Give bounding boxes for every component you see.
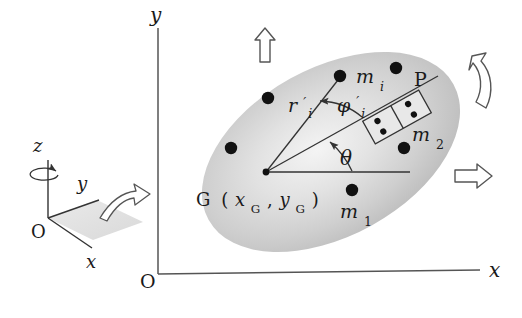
center-coord-x: x (235, 189, 245, 210)
m-1-symbol: m (340, 200, 358, 222)
r-symbol: r (288, 94, 299, 116)
phi-subscript: i (361, 106, 365, 121)
r-prime-mark: ′ (303, 95, 306, 110)
phi-symbol: φ (337, 94, 351, 116)
m-1-subscript: 1 (364, 214, 372, 229)
center-paren-close: ) (312, 189, 319, 210)
patch-label-P: P (414, 68, 427, 90)
r-subscript: i (308, 106, 312, 121)
center-coord-sep: , (267, 189, 273, 210)
svg-text:G ( x: G ( x G , y G ) (196, 189, 319, 216)
svg-text:m 1: m 1 (340, 200, 372, 229)
theta-label: θ (340, 146, 352, 170)
inset-y-axis-label: y (76, 173, 88, 194)
label-layer: O x y O z y x G ( x G , y G ) r ′ (0, 0, 522, 318)
center-coord-y-sub: G (295, 202, 305, 216)
phi-prime-mark: ′ (356, 94, 359, 109)
inset-origin-label: O (31, 221, 46, 242)
mass-label-m-2: m 2 (412, 123, 444, 152)
svg-text:r ′ i: r ′ i (288, 89, 312, 121)
center-coord-x-sub: G (251, 202, 261, 216)
svg-text:m 2: m 2 (412, 123, 444, 152)
global-origin-label: O (140, 270, 156, 292)
r-prime-i-label: r ′ i (288, 89, 312, 121)
svg-text:φ ′ i: φ ′ i (337, 88, 365, 121)
m-i-symbol: m (356, 65, 374, 87)
center-of-mass-label: G ( x G , y G ) (196, 189, 319, 216)
m-i-subscript: i (380, 79, 384, 94)
center-coord-y: y (278, 189, 290, 210)
global-x-axis-label: x (489, 258, 500, 282)
mass-label-m-1: m 1 (340, 200, 372, 229)
m-2-symbol: m (412, 123, 430, 145)
global-y-axis-label: y (149, 3, 162, 27)
inset-z-axis-label: z (32, 135, 43, 156)
figure-canvas: O x y O z y x G ( x G , y G ) r ′ (0, 0, 522, 318)
center-paren-open: ( (221, 189, 228, 210)
m-2-subscript: 2 (436, 137, 444, 152)
center-label-G: G (196, 189, 210, 210)
phi-prime-i-label: φ ′ i (337, 88, 365, 121)
inset-x-axis-label: x (86, 251, 96, 272)
